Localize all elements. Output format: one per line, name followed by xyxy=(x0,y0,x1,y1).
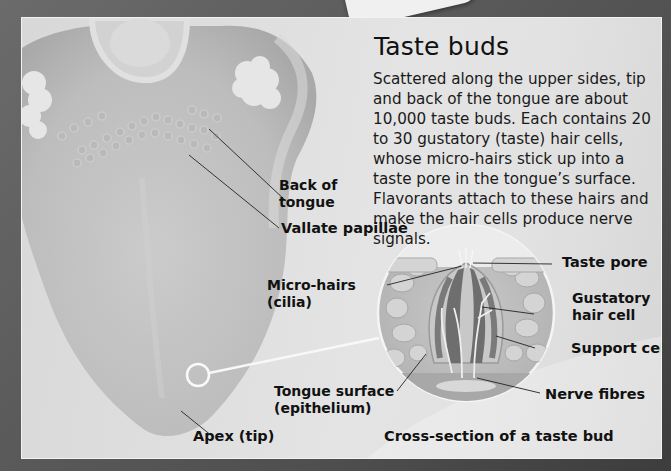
label-apex: Apex (tip) xyxy=(193,428,274,444)
body-text: Scattered along the upper sides, tip and… xyxy=(373,69,662,249)
label-gustatory-hair-cell: Gustatory hair cell xyxy=(572,290,650,324)
cross-section-caption: Cross-section of a taste bud xyxy=(384,428,614,444)
title: Taste buds xyxy=(374,32,509,61)
label-support-cell: Support cell xyxy=(571,340,662,356)
illustration-panel: Taste buds Scattered along the upper sid… xyxy=(21,17,662,459)
taste-bud-cross-section xyxy=(378,225,554,413)
label-back-of-tongue: Back of tongue xyxy=(279,177,337,211)
label-taste-pore: Taste pore xyxy=(562,254,648,270)
label-nerve-fibres: Nerve fibres xyxy=(545,386,645,402)
label-micro-hairs: Micro-hairs (cilia) xyxy=(267,277,356,311)
label-vallate-papillae: Vallate papillae xyxy=(281,220,408,236)
label-tongue-surface: Tongue surface (epithelium) xyxy=(274,383,394,417)
